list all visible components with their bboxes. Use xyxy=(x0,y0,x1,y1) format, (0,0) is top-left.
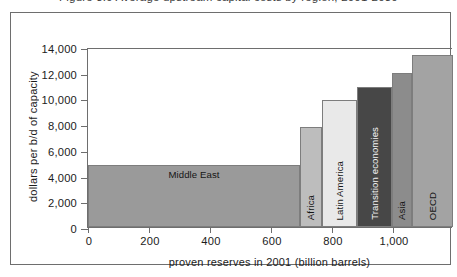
bar-label-middle-east: Middle East xyxy=(168,169,219,180)
y-tick-label-14000: 14,000 xyxy=(42,43,77,55)
y-tick-label-6000: 6,000 xyxy=(48,146,77,158)
bar-middle-east[interactable]: Middle East xyxy=(88,165,300,227)
bar-label-oecd: OECD xyxy=(427,192,438,220)
x-tick-label-600: 600 xyxy=(262,235,281,247)
y-tick-14000: 14,000 xyxy=(81,49,88,50)
chart-frame: dollars per b/d of capacity proven reser… xyxy=(10,12,451,265)
y-tick-0: 0 xyxy=(81,229,88,230)
bar-label-transition-economies: Transition economies xyxy=(369,127,380,220)
x-axis-title: proven reserves in 2001 (billion barrels… xyxy=(87,256,452,268)
x-tick-600: 600 xyxy=(271,227,272,233)
bar-label-africa: Africa xyxy=(305,195,316,220)
y-tick-4000: 4,000 xyxy=(81,178,88,179)
y-tick-label-10000: 10,000 xyxy=(42,94,77,106)
figure-caption-fragment: Figure 3.9 Average upstream capital cost… xyxy=(0,0,457,5)
x-tick-800: 800 xyxy=(332,227,333,233)
y-tick-label-0: 0 xyxy=(71,223,77,235)
y-tick-8000: 8,000 xyxy=(81,126,88,127)
x-tick-0: 0 xyxy=(88,227,89,233)
y-tick-label-2000: 2,000 xyxy=(48,197,77,209)
bar-label-asia: Asia xyxy=(396,201,407,220)
x-tick-label-1000: 1,000 xyxy=(380,235,409,247)
y-tick-label-8000: 8,000 xyxy=(48,120,77,132)
y-tick-10000: 10,000 xyxy=(81,100,88,101)
bar-transition-economies[interactable]: Transition economies xyxy=(357,87,392,227)
plot-area: 0 2,000 4,000 6,000 8,000 10,000 12,000 … xyxy=(87,48,452,228)
bar-oecd[interactable]: OECD xyxy=(412,55,453,227)
bar-asia[interactable]: Asia xyxy=(392,73,412,227)
x-tick-1000: 1,000 xyxy=(393,227,394,233)
y-tick-2000: 2,000 xyxy=(81,203,88,204)
x-tick-label-400: 400 xyxy=(201,235,220,247)
y-tick-12000: 12,000 xyxy=(81,75,88,76)
y-tick-6000: 6,000 xyxy=(81,152,88,153)
x-tick-400: 400 xyxy=(210,227,211,233)
x-tick-label-200: 200 xyxy=(140,235,159,247)
y-tick-label-4000: 4,000 xyxy=(48,172,77,184)
x-tick-label-0: 0 xyxy=(86,235,92,247)
chart-figure: Figure 3.9 Average upstream capital cost… xyxy=(0,0,457,277)
y-tick-label-12000: 12,000 xyxy=(42,69,77,81)
bar-latin-america[interactable]: Latin America xyxy=(322,100,357,227)
y-axis-title: dollars per b/d of capacity xyxy=(27,49,39,224)
bar-label-latin-america: Latin America xyxy=(334,161,345,220)
bar-africa[interactable]: Africa xyxy=(300,127,322,227)
x-tick-label-800: 800 xyxy=(323,235,342,247)
x-tick-200: 200 xyxy=(149,227,150,233)
